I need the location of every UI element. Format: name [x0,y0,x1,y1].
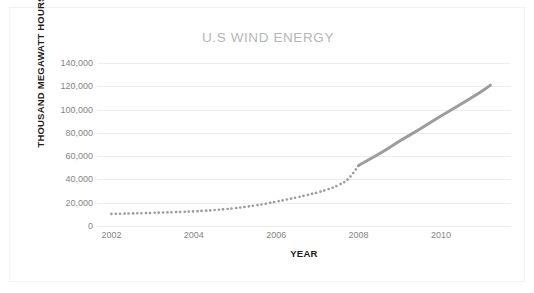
x-axis-tick-labels: 20022004200620082010 [97,230,511,244]
y-tick-label: 0 [19,221,93,231]
y-tick-label: 80,000 [19,128,93,138]
data-series-line [97,63,511,226]
y-tick-label: 20,000 [19,198,93,208]
y-tick-label: 60,000 [19,151,93,161]
x-axis-title: YEAR [97,248,511,259]
x-tick-label: 2004 [184,230,204,240]
series-solid-segment [359,85,491,165]
x-tick-label: 2010 [431,230,451,240]
y-tick-label: 140,000 [19,58,93,68]
x-tick-label: 2008 [349,230,369,240]
y-tick-label: 40,000 [19,174,93,184]
y-tick-label: 120,000 [19,81,93,91]
y-tick-label: 100,000 [19,105,93,115]
chart-title: U.S WIND ENERGY [10,30,526,45]
y-axis-tick-labels: 020,00040,00060,00080,000100,000120,0001… [19,63,93,226]
series-dotted-segment [111,165,358,213]
plot-area [97,63,511,226]
chart-container: U.S WIND ENERGY THOUSAND MEGAWATT HOURS … [9,7,525,282]
gridline-0 [97,226,511,227]
x-tick-label: 2006 [266,230,286,240]
x-tick-label: 2002 [101,230,121,240]
